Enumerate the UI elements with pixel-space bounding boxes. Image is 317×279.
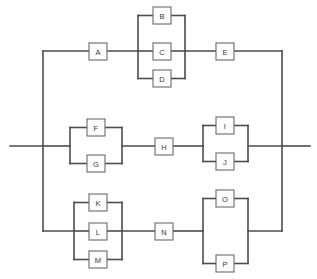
block-i[interactable]: I — [216, 117, 234, 134]
block-p[interactable]: P — [216, 255, 234, 272]
block-label-e: E — [222, 48, 227, 57]
block-label-b: B — [159, 12, 164, 21]
block-label-d: D — [159, 75, 165, 84]
block-h[interactable]: H — [155, 138, 173, 155]
block-label-i: I — [224, 122, 226, 131]
block-m[interactable]: M — [89, 251, 107, 268]
block-label-h: H — [161, 143, 167, 152]
block-label-c: C — [159, 48, 165, 57]
block-label-j: J — [223, 158, 227, 167]
block-label-n: N — [161, 228, 167, 237]
block-k[interactable]: K — [89, 194, 107, 211]
block-c[interactable]: C — [153, 43, 171, 60]
block-label-a: A — [95, 48, 100, 57]
block-label-k: K — [95, 199, 100, 208]
block-label-p: P — [222, 260, 227, 269]
reliability-block-diagram: ABCDEFGHIJKLMNOP — [0, 0, 317, 279]
block-label-f: F — [94, 124, 99, 133]
block-j[interactable]: J — [216, 153, 234, 170]
block-n[interactable]: N — [155, 223, 173, 240]
diagram-canvas: ABCDEFGHIJKLMNOP — [0, 0, 317, 279]
block-f[interactable]: F — [87, 119, 105, 136]
block-b[interactable]: B — [153, 7, 171, 24]
block-layer: ABCDEFGHIJKLMNOP — [87, 7, 234, 272]
block-o[interactable]: O — [216, 190, 234, 207]
block-d[interactable]: D — [153, 70, 171, 87]
block-g[interactable]: G — [87, 155, 105, 172]
block-label-o: O — [222, 195, 228, 204]
block-l[interactable]: L — [89, 223, 107, 240]
block-label-g: G — [93, 160, 99, 169]
block-e[interactable]: E — [216, 43, 234, 60]
block-label-m: M — [95, 256, 101, 265]
block-label-l: L — [96, 228, 100, 237]
block-a[interactable]: A — [89, 43, 107, 60]
